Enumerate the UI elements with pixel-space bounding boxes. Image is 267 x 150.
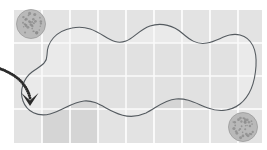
speckled-circle-top-left-speck bbox=[24, 32, 26, 34]
speckled-circle-top-left-speck bbox=[33, 13, 36, 16]
speckled-circle-top-left[interactable] bbox=[17, 10, 46, 39]
speckled-circle-bottom-right-speck bbox=[234, 125, 236, 127]
speckled-circle-top-left-speck bbox=[40, 20, 43, 23]
speckled-circle-bottom-right-speck bbox=[239, 136, 242, 139]
speckled-circle-bottom-right-speck bbox=[240, 120, 242, 122]
speckled-circle-bottom-right-speck bbox=[246, 135, 248, 137]
speckled-circle-top-left-speck bbox=[23, 26, 24, 27]
speckled-circle-bottom-right-speck bbox=[246, 119, 249, 122]
speckled-circle-bottom-right-speck bbox=[242, 135, 245, 138]
speckled-circle-top-left-speck bbox=[39, 29, 40, 30]
speckled-circle-bottom-right-speck bbox=[241, 125, 243, 127]
speckled-circle-top-left-speck bbox=[33, 22, 35, 24]
diagram-canvas bbox=[0, 0, 267, 150]
speckled-circle-bottom-right-speck bbox=[250, 133, 252, 135]
speckled-circle-bottom-right-speck bbox=[248, 121, 251, 124]
speckled-circle-top-left-speck bbox=[31, 25, 33, 27]
speckled-circle-bottom-right-speck bbox=[239, 117, 242, 120]
speckled-circle-top-left-speck bbox=[39, 25, 41, 27]
speckled-circle-bottom-right-speck bbox=[244, 128, 246, 130]
speckled-circle-bottom-right-speck bbox=[251, 120, 253, 122]
grid-cell-dark bbox=[70, 109, 98, 143]
speckled-circle-top-left-speck bbox=[24, 19, 26, 21]
speckled-circle-bottom-right-speck bbox=[244, 121, 247, 124]
speckled-circle-top-left-speck bbox=[33, 30, 35, 32]
region-group bbox=[22, 24, 257, 116]
speckled-circle-bottom-right-speck bbox=[242, 117, 244, 119]
speckled-circle-top-left-speck bbox=[34, 20, 37, 23]
speckled-circle-bottom-right-speck bbox=[245, 125, 246, 126]
speckled-circle-bottom-right-speck bbox=[239, 128, 241, 130]
speckled-circle-top-left-speck bbox=[22, 22, 24, 24]
speckled-circle-top-left-speck bbox=[22, 16, 24, 18]
speckled-circle-bottom-right[interactable] bbox=[229, 113, 258, 142]
speckled-circle-bottom-right-speck bbox=[234, 121, 236, 123]
speckled-circle-top-left-speck bbox=[28, 20, 30, 22]
speckled-circle-top-left-speck bbox=[31, 21, 33, 23]
speckled-circle-top-left-speck bbox=[25, 24, 28, 27]
speckled-circle-top-left-speck bbox=[28, 12, 31, 15]
speckled-circle-bottom-right-speck bbox=[246, 125, 247, 126]
diagram-svg bbox=[0, 0, 267, 150]
speckled-circle-bottom-right-speck bbox=[242, 131, 244, 133]
speckled-circle-bottom-right-speck bbox=[252, 131, 254, 133]
speckled-circle-top-left-speck bbox=[40, 22, 42, 24]
arrow-dot bbox=[29, 97, 32, 100]
speckled-circle-top-left-speck bbox=[32, 18, 35, 21]
speckled-circle-bottom-right-speck bbox=[232, 127, 235, 130]
speckled-circle-top-left-speck bbox=[36, 32, 38, 34]
speckled-circle-bottom-right-speck bbox=[249, 125, 251, 127]
region-outline[interactable] bbox=[22, 24, 257, 116]
speckled-circle-top-left-speck bbox=[31, 28, 33, 30]
speckled-circle-bottom-right-speck bbox=[236, 132, 239, 135]
speckled-circle-top-left-speck bbox=[39, 17, 41, 19]
speckled-circle-bottom-right-speck bbox=[251, 123, 253, 125]
